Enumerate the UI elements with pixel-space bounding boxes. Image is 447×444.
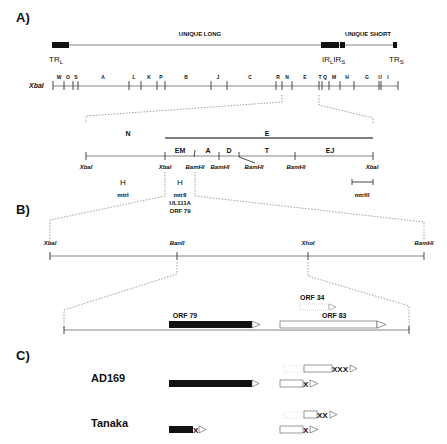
- ad169-orf34-83: XXX: [284, 365, 357, 374]
- svg-text:A: A: [205, 147, 210, 154]
- mtriii-bar: [352, 179, 373, 185]
- orf79-gene-label: ORF 79: [169, 208, 191, 214]
- mtrii-h-glyph: H: [177, 178, 183, 187]
- genome-map-diagram: A) UNIQUE LONG UNIQUE SHORT TRL IRLIRS T…: [0, 0, 447, 444]
- trs-block: [393, 42, 397, 48]
- ul111a-label: UL111A: [169, 200, 191, 206]
- irl-block: [321, 42, 339, 48]
- tanaka-orf79-truncated: X: [169, 426, 206, 435]
- e-label: E: [265, 130, 270, 137]
- tanaka-stop-orf79: X: [193, 426, 199, 435]
- svg-text:BamHI: BamHI: [414, 240, 433, 246]
- svg-text:E: E: [303, 74, 307, 80]
- n-label: N: [125, 130, 130, 137]
- svg-text:R: R: [276, 74, 280, 80]
- zoom-line-b-right: [195, 172, 424, 240]
- zoom-line-c-left: [64, 262, 177, 330]
- ad169-stop-bottom: X: [303, 380, 309, 389]
- orf79-label: ORF 79: [173, 312, 198, 319]
- svg-text:XhoI: XhoI: [301, 240, 315, 246]
- svg-text:G: G: [365, 74, 369, 80]
- svg-text:XbaI: XbaI: [158, 164, 172, 170]
- orf34-label: ORF 34: [300, 294, 325, 301]
- svg-text:BamHI: BamHI: [244, 164, 263, 170]
- ad169-stop-top: XXX: [332, 365, 349, 374]
- panel-b-label: B): [16, 202, 30, 217]
- strain-tanaka-label: Tanaka: [91, 417, 129, 429]
- tanaka-orf83-truncated: X: [280, 426, 318, 435]
- svg-text:H: H: [345, 74, 349, 80]
- svg-text:L: L: [132, 74, 135, 80]
- mtrii-label: mtrII: [173, 192, 186, 198]
- tanaka-stop-top: XX: [317, 411, 328, 420]
- irl-irs-label: IRLIRS: [322, 55, 345, 65]
- svg-text:M: M: [332, 74, 336, 80]
- mtri-h-glyph: H: [120, 178, 126, 187]
- xbai-ticks: [53, 81, 398, 90]
- svg-text:Q: Q: [323, 74, 327, 80]
- svg-text:T: T: [265, 147, 270, 154]
- svg-text:BamHI: BamHI: [210, 164, 229, 170]
- panel-b-site-labels: XbaI BanII XhoI BamHI: [43, 240, 434, 246]
- svg-text:EM: EM: [175, 147, 186, 154]
- svg-text:O: O: [66, 74, 70, 80]
- svg-text:BanII: BanII: [170, 240, 185, 246]
- svg-text:XbaI: XbaI: [43, 240, 57, 246]
- svg-text:P: P: [159, 74, 163, 80]
- svg-text:XbaI: XbaI: [79, 164, 93, 170]
- zoom-line-b-left: [50, 172, 165, 240]
- mtriii-label: mtrIII: [355, 192, 370, 198]
- ad169-orf83-truncated: X: [280, 380, 318, 389]
- svg-text:D: D: [226, 147, 231, 154]
- zoom-line-right: [319, 95, 373, 123]
- trl-block: [52, 42, 69, 48]
- svg-text:T: T: [318, 74, 321, 80]
- tanaka-orf34-83: XX: [284, 411, 337, 420]
- svg-text:BamHI: BamHI: [286, 164, 305, 170]
- detail-sub-fragments: EM A D T EJ: [175, 147, 335, 154]
- svg-text:C: C: [248, 74, 252, 80]
- tanaka-stop-bottom: X: [303, 426, 309, 435]
- orf79-arrow: [169, 321, 260, 328]
- trs-label: TRS: [389, 55, 404, 65]
- orf34-arrow: [300, 304, 336, 310]
- svg-text:N: N: [285, 74, 289, 80]
- strain-ad169-label: AD169: [91, 372, 125, 384]
- panel-a-label: A): [16, 10, 30, 25]
- unique-long-label: UNIQUE LONG: [179, 31, 222, 37]
- svg-text:W: W: [57, 74, 62, 80]
- xbai-fragment-labels: W O S A L K P B J C R N E T Q M H G U I: [57, 74, 390, 80]
- irs-block: [340, 42, 345, 48]
- panel-c-label: C): [16, 348, 30, 363]
- mtri-label: mtrI: [117, 192, 129, 198]
- orf83-label: ORF 83: [322, 312, 347, 319]
- svg-text:I: I: [387, 74, 389, 80]
- trl-label: TRL: [49, 55, 64, 65]
- svg-text:XbaI: XbaI: [365, 164, 379, 170]
- orf83-arrow: [280, 321, 386, 328]
- zoom-line-left: [86, 95, 282, 123]
- ad169-orf79: [169, 380, 259, 387]
- svg-text:B: B: [184, 74, 188, 80]
- xbai-enzyme-label: XbaI: [28, 82, 45, 89]
- svg-text:A: A: [101, 74, 105, 80]
- unique-short-label: UNIQUE SHORT: [345, 31, 391, 37]
- svg-text:EJ: EJ: [326, 147, 335, 154]
- svg-text:U: U: [378, 74, 382, 80]
- svg-text:BamHI: BamHI: [185, 164, 204, 170]
- svg-text:S: S: [74, 74, 78, 80]
- svg-text:J: J: [217, 74, 220, 80]
- svg-text:K: K: [147, 74, 151, 80]
- detail-site-labels: XbaI XbaI BamHI BamHI BamHI BamHI XbaI: [79, 164, 379, 170]
